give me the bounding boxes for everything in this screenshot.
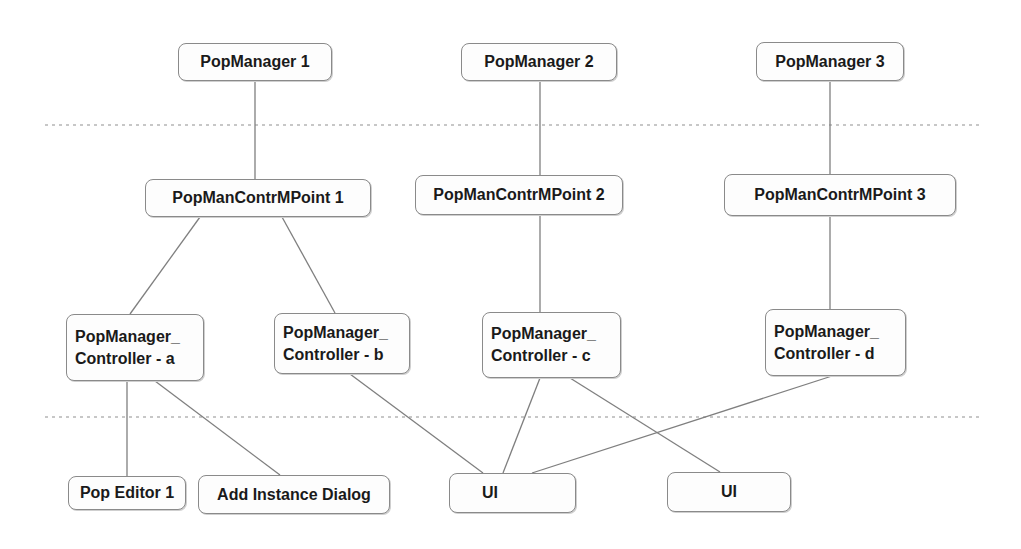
node-label: PopManContrMPoint 2 — [433, 184, 605, 206]
node-label: UI — [482, 482, 498, 504]
edge-ctlc-ui2 — [570, 378, 720, 472]
node-label: PopManager_ Controller - d — [774, 321, 879, 364]
node-controller-d: PopManager_ Controller - d — [765, 309, 906, 376]
edge-cmp1-ctlb — [282, 217, 335, 313]
node-label: Add Instance Dialog — [217, 484, 371, 506]
node-add-instance-dialog: Add Instance Dialog — [198, 475, 390, 514]
node-popmancontrmpoint-3: PopManContrMPoint 3 — [724, 174, 956, 216]
controller-architecture-diagram: PopManager 1 PopManager 2 PopManager 3 P… — [0, 0, 1021, 549]
node-pop-editor-1: Pop Editor 1 — [68, 476, 186, 510]
node-label: PopManager_ Controller - b — [283, 322, 388, 365]
node-popmancontrmpoint-1: PopManContrMPoint 1 — [145, 179, 371, 217]
node-ui: UI — [667, 472, 791, 512]
node-label: Pop Editor 1 — [80, 482, 174, 504]
node-label: PopManager_ Controller - a — [75, 326, 180, 369]
node-label: PopManager_ Controller - c — [491, 323, 596, 366]
edge-ctlb-ui1 — [350, 374, 483, 473]
edge-ctld-ui1 — [532, 376, 832, 473]
diagram-lines — [0, 0, 1021, 549]
edge-cmp1-ctla — [130, 217, 200, 314]
edge-ctla-aid — [155, 381, 280, 475]
edge-ctlc-ui1 — [503, 378, 540, 473]
node-popmanager-1: PopManager 1 — [178, 43, 332, 81]
node-label: PopManContrMPoint 1 — [172, 187, 344, 209]
node-ui-shared: UI — [449, 473, 576, 513]
node-label: PopManContrMPoint 3 — [754, 184, 926, 206]
node-controller-a: PopManager_ Controller - a — [66, 314, 204, 381]
node-label: UI — [721, 481, 737, 503]
node-label: PopManager 2 — [484, 51, 593, 73]
node-popmanager-3: PopManager 3 — [756, 42, 904, 81]
node-controller-b: PopManager_ Controller - b — [274, 313, 410, 374]
node-controller-c: PopManager_ Controller - c — [482, 312, 621, 378]
node-popmancontrmpoint-2: PopManContrMPoint 2 — [415, 175, 623, 215]
node-label: PopManager 1 — [200, 51, 309, 73]
node-label: PopManager 3 — [775, 51, 884, 73]
node-popmanager-2: PopManager 2 — [461, 43, 617, 81]
